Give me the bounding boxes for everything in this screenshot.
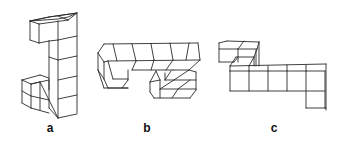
- figure-canvas: a b c: [0, 0, 344, 147]
- label-b: b: [143, 122, 150, 134]
- label-c: c: [271, 122, 278, 134]
- figure-b-drawing: [98, 43, 200, 98]
- figure-a-drawing: [22, 13, 77, 118]
- label-a: a: [47, 122, 54, 134]
- figure-c-drawing: [219, 41, 326, 110]
